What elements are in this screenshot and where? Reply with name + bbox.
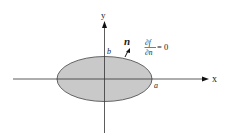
semi-axis-a-label: a xyxy=(154,81,158,90)
bc-equals-zero: = 0 xyxy=(157,42,168,52)
y-axis-arrow-icon xyxy=(102,21,107,28)
bc-denominator: ∂n xyxy=(145,48,153,57)
bc-numerator: ∂f xyxy=(145,38,152,47)
y-axis-label: y xyxy=(101,10,106,20)
normal-vector-label: n xyxy=(124,35,130,47)
semi-axis-b-label: b xyxy=(107,47,111,56)
x-axis-label: x xyxy=(212,73,217,84)
normal-vector-arrow-icon xyxy=(126,48,130,53)
ellipse-diagram: x y b a n ∂f ∂n = 0 xyxy=(0,0,227,139)
x-axis-arrow-icon xyxy=(202,77,209,82)
